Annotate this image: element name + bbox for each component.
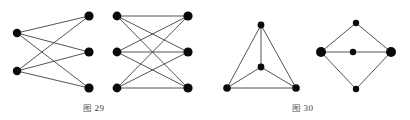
graph-vertex — [13, 29, 21, 37]
graph-vertex — [183, 11, 192, 20]
caption-number-29: 29 — [95, 103, 105, 113]
graph-complete-bipartite-k23 — [13, 11, 94, 92]
graph-edge — [321, 23, 356, 52]
graph-vertex — [13, 67, 21, 75]
graph-complete-graph-k4-planar — [223, 22, 300, 92]
graph-vertex — [183, 47, 192, 56]
graph-vertex — [258, 64, 265, 71]
graph-vertex — [350, 49, 356, 55]
caption-number-30: 30 — [304, 103, 314, 113]
graph-vertex — [113, 48, 122, 57]
graph-edge — [17, 33, 89, 52]
figure-panel: 图29 图30 — [0, 0, 410, 120]
graph-diagram-canvas — [0, 0, 410, 120]
graph-vertex — [183, 83, 192, 92]
figure-caption-30: 图30 — [292, 101, 314, 113]
graph-vertex — [113, 84, 122, 93]
caption-cjk-label-29: 图 — [83, 103, 93, 113]
graph-vertex — [84, 47, 93, 56]
graph-vertex — [258, 22, 265, 29]
graph-edge — [356, 23, 391, 52]
graph-vertex — [84, 83, 93, 92]
graph-edge — [17, 52, 89, 71]
graph-vertex — [292, 84, 300, 92]
graph-edge — [227, 67, 261, 88]
graph-edge — [261, 67, 296, 88]
graph-vertex — [316, 47, 326, 57]
graph-diamond-with-center-vertex — [316, 20, 396, 92]
graph-vertex — [386, 47, 396, 57]
graph-vertex — [223, 84, 231, 92]
graph-edge — [227, 25, 261, 88]
graph-edge — [356, 52, 391, 89]
graph-vertex — [113, 12, 122, 21]
graph-edge — [261, 25, 296, 88]
caption-cjk-label-30: 图 — [292, 103, 302, 113]
graph-vertex — [353, 20, 359, 26]
figure-caption-29: 图29 — [83, 101, 105, 113]
graph-complete-bipartite-k33 — [113, 11, 193, 92]
graph-vertex — [353, 86, 359, 92]
graph-vertex — [84, 11, 93, 20]
graph-edge — [321, 52, 356, 89]
